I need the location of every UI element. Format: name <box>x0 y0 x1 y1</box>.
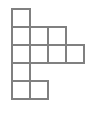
grid-shape-diagram <box>0 0 93 116</box>
grid-cell-r3-c1 <box>12 45 30 63</box>
grid-cell-r3-c4 <box>66 45 84 63</box>
grid-cell-r5-c1 <box>12 81 30 99</box>
grid-cell-r1-c1 <box>12 9 30 27</box>
grid-cell-r3-c3 <box>48 45 66 63</box>
grid-cell-r5-c2 <box>30 81 48 99</box>
grid-cell-r3-c2 <box>30 45 48 63</box>
grid-cell-r4-c1 <box>12 63 30 81</box>
figure-root <box>0 0 93 116</box>
grid-cell-r2-c1 <box>12 27 30 45</box>
grid-cell-r2-c3 <box>48 27 66 45</box>
grid-cell-r2-c2 <box>30 27 48 45</box>
